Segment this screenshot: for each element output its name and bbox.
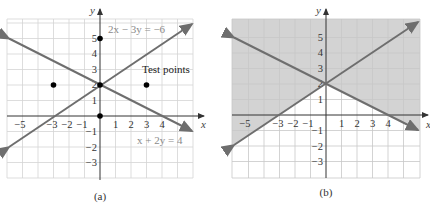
svg-text:1: 1 (339, 118, 344, 129)
svg-text:−2: −2 (312, 141, 323, 152)
y-axis-label-a: y (89, 4, 95, 16)
svg-text:−5: −5 (239, 118, 250, 129)
panel-b: y x −5 −3 −2 −1 1 2 3 4 5 4 3 2 1 −1 −2 … (232, 4, 430, 199)
svg-text:2: 2 (354, 118, 359, 129)
svg-text:−3: −3 (86, 157, 97, 168)
svg-text:−5: −5 (14, 119, 25, 130)
eq-label-2x-3y: 2x − 3y = −6 (108, 23, 166, 35)
svg-text:−2: −2 (86, 142, 97, 153)
caption-a: (a) (94, 190, 107, 203)
svg-text:1: 1 (113, 119, 118, 130)
panel-a: x y −5 −3 −2 −1 1 2 3 4 5 4 3 2 1 −1 −2 … (7, 4, 206, 203)
svg-text:2: 2 (128, 119, 133, 130)
svg-text:−2: −2 (287, 118, 298, 129)
test-points-label: Test points (142, 63, 190, 75)
svg-text:1: 1 (92, 95, 97, 106)
y-axis-label-b: y (315, 4, 321, 16)
svg-text:−3: −3 (272, 118, 283, 129)
svg-text:−1: −1 (86, 126, 97, 137)
svg-text:3: 3 (92, 64, 97, 75)
svg-text:−1: −1 (312, 125, 323, 136)
svg-text:−2: −2 (61, 119, 72, 130)
svg-text:3: 3 (370, 118, 375, 129)
svg-text:5: 5 (318, 32, 323, 43)
svg-text:3: 3 (144, 119, 149, 130)
svg-text:3: 3 (318, 63, 323, 74)
x-axis-label-b: x (425, 118, 430, 130)
svg-text:1: 1 (318, 94, 323, 105)
svg-text:4: 4 (159, 119, 165, 130)
caption-b: (b) (320, 186, 333, 199)
svg-text:4: 4 (318, 47, 324, 58)
svg-text:−3: −3 (312, 156, 323, 167)
eq-label-x-2y: x + 2y = 4 (137, 134, 183, 146)
svg-text:4: 4 (92, 48, 98, 59)
x-axis-label-a: x (200, 118, 206, 130)
svg-text:4: 4 (385, 118, 391, 129)
figure: x y −5 −3 −2 −1 1 2 3 4 5 4 3 2 1 −1 −2 … (0, 0, 430, 206)
svg-text:5: 5 (92, 33, 97, 44)
